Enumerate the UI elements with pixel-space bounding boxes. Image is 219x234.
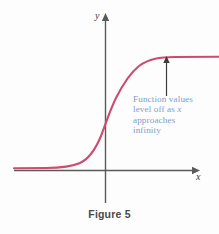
annotation-variable: x <box>177 104 181 114</box>
figure-caption: Figure 5 <box>0 208 219 220</box>
annotation-line-3: approaches <box>133 115 217 125</box>
annotation-line-4: infinity <box>133 125 217 135</box>
y-axis-label: y <box>95 11 99 21</box>
annotation-line-1: Function values <box>133 94 217 104</box>
annotation-label: Function values level off as x approache… <box>133 94 217 136</box>
annotation-line-2-text: level off as <box>133 104 177 114</box>
x-axis-label: x <box>196 172 200 182</box>
annotation-arrow-icon <box>163 56 169 96</box>
annotation-line-2: level off as x <box>133 104 217 114</box>
y-axis <box>102 13 109 203</box>
figure-container: y x Function values level off as x appro… <box>0 0 219 234</box>
